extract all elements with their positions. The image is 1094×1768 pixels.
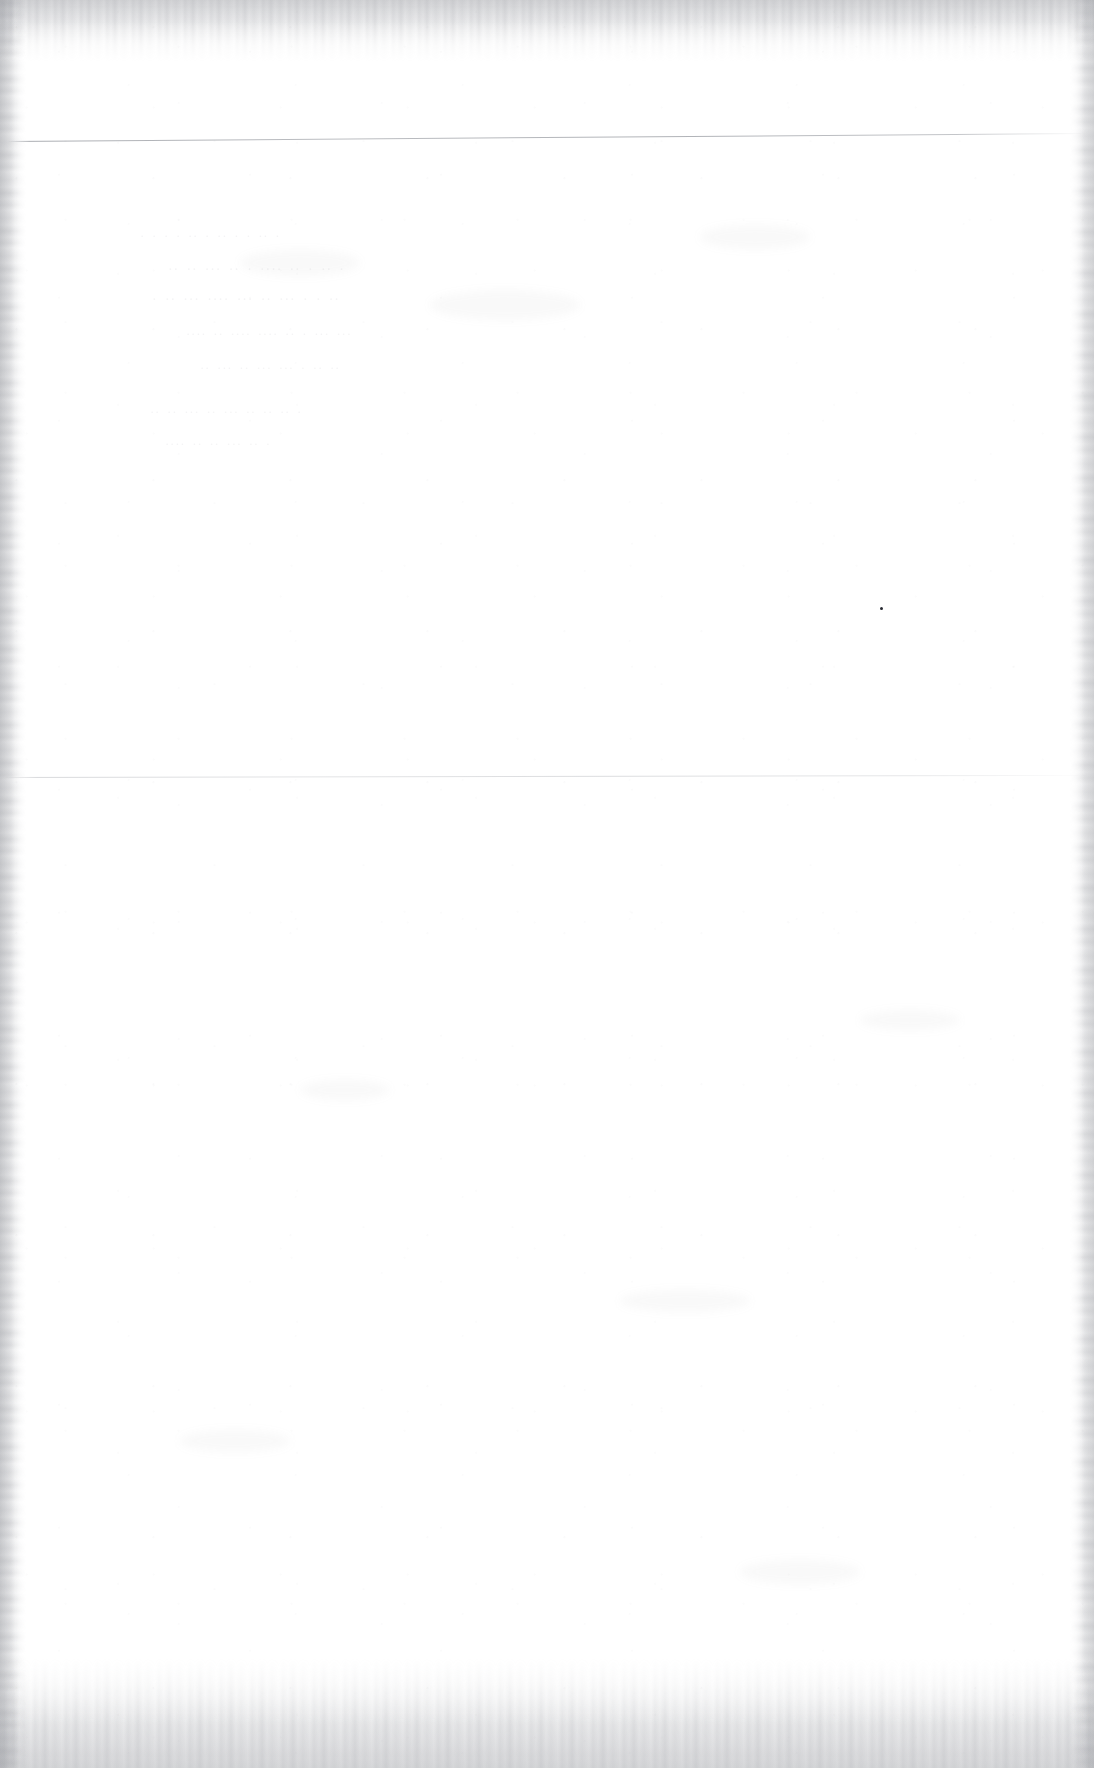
paper-smudge xyxy=(430,290,580,320)
ink-speck-mark xyxy=(880,607,883,610)
scanned-page: · · · · ·· · ·· · · ·· ··· ·· ··· ·· · ·… xyxy=(0,0,1094,1768)
ghost-text-line: ·· ·· ··· ·· ··· ·· ·· ·· · xyxy=(150,404,302,420)
paper-smudge xyxy=(620,1290,750,1312)
ghost-text-line: ·· ··· ·· ··· ··· · ·· ·· xyxy=(200,360,340,376)
paper-smudge xyxy=(700,225,810,249)
paper-smudge xyxy=(860,1010,960,1030)
paper-smudge xyxy=(180,1430,290,1452)
paper-smudge xyxy=(240,250,360,276)
paper-surface xyxy=(0,0,1094,1768)
ghost-text-line: · · · · ·· · ·· · · ·· · xyxy=(140,228,280,244)
ghost-text-line: · ·· ··· ···· ··· ·· ··· · · ·· xyxy=(152,292,340,308)
ghost-text-line: ···· ·· ·· ··· ·· · xyxy=(165,436,271,452)
paper-smudge xyxy=(300,1080,390,1100)
paper-smudge xyxy=(740,1560,860,1584)
ghost-text-line: ···· ·· ···· ···· ·· · ··· ··· xyxy=(186,326,352,342)
